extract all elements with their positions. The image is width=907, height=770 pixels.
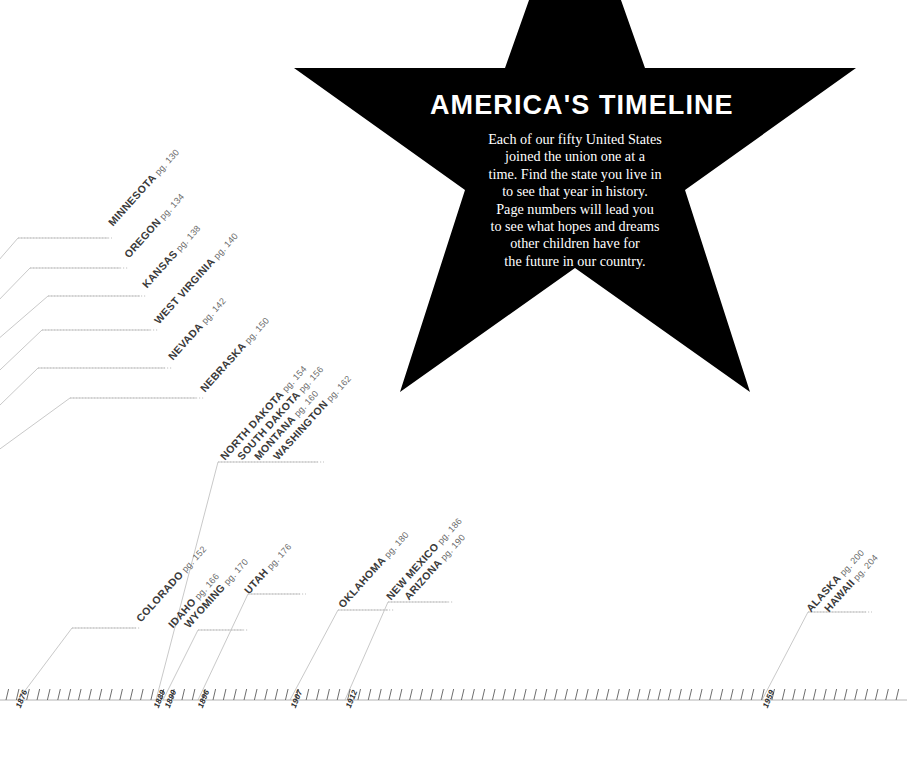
- intro-line: the future in our country.: [430, 253, 720, 270]
- axis-tick: [658, 689, 661, 700]
- axis-tick: [503, 689, 506, 700]
- axis-tick: [710, 689, 713, 700]
- axis-tick: [596, 689, 599, 700]
- intro-line: to see what hopes and dreams: [430, 218, 720, 235]
- axis-tick: [379, 689, 382, 700]
- axis-tick: [37, 689, 40, 700]
- axis-tick: [327, 689, 330, 700]
- axis-tick: [265, 689, 268, 700]
- axis-tick: [306, 689, 309, 700]
- axis-tick: [720, 689, 723, 700]
- axis-tick: [782, 689, 785, 700]
- axis-tick: [741, 689, 744, 700]
- intro-line: joined the union one at a: [430, 148, 720, 165]
- axis-tick: [6, 689, 9, 700]
- axis-tick: [617, 689, 620, 700]
- intro-line: to see that year in history.: [430, 183, 720, 200]
- axis-tick: [813, 689, 816, 700]
- axis-tick: [89, 689, 92, 700]
- axis-tick: [441, 689, 444, 700]
- intro-line: time. Find the state you live in: [430, 166, 720, 183]
- axis-tick: [844, 689, 847, 700]
- axis-tick: [461, 689, 464, 700]
- axis-tick: [699, 689, 702, 700]
- axis-tick: [430, 689, 433, 700]
- axis-tick: [865, 689, 868, 700]
- axis-tick: [389, 689, 392, 700]
- axis-tick: [99, 689, 102, 700]
- axis-tick: [689, 689, 692, 700]
- intro-line: other children have for: [430, 235, 720, 252]
- axis-tick: [141, 689, 144, 700]
- axis-tick: [78, 689, 81, 700]
- axis-tick: [368, 689, 371, 700]
- axis-tick: [110, 689, 113, 700]
- axis-tick: [420, 689, 423, 700]
- axis-tick: [534, 689, 537, 700]
- axis-tick: [130, 689, 133, 700]
- axis-tick: [492, 689, 495, 700]
- axis-tick: [565, 689, 568, 700]
- intro-line: Each of our fifty United States: [430, 131, 720, 148]
- axis-tick: [223, 689, 226, 700]
- axis-tick: [513, 689, 516, 700]
- axis-tick: [555, 689, 558, 700]
- axis-tick: [182, 689, 185, 700]
- axis-tick: [275, 689, 278, 700]
- axis-tick: [575, 689, 578, 700]
- axis-tick: [285, 689, 288, 700]
- axis-tick: [317, 689, 320, 700]
- intro-line: Page numbers will lead you: [430, 201, 720, 218]
- axis-tick: [472, 689, 475, 700]
- axis-tick: [192, 689, 195, 700]
- axis-tick: [58, 689, 61, 700]
- axis-tick: [151, 689, 154, 700]
- axis-tick: [68, 689, 71, 700]
- axis-tick: [254, 689, 257, 700]
- axis-tick: [244, 689, 247, 700]
- axis-tick: [648, 689, 651, 700]
- axis-tick: [679, 689, 682, 700]
- axis-tick: [47, 689, 50, 700]
- axis-tick: [120, 689, 123, 700]
- axis-tick: [896, 689, 899, 700]
- axis-tick: [793, 689, 796, 700]
- axis-tick: [637, 689, 640, 700]
- axis-tick: [751, 689, 754, 700]
- axis-tick: [875, 689, 878, 700]
- axis-tick: [524, 689, 527, 700]
- axis-tick: [544, 689, 547, 700]
- axis-tick: [337, 689, 340, 700]
- intro-paragraph: Each of our fifty United Statesjoined th…: [430, 131, 720, 270]
- axis-tick: [451, 689, 454, 700]
- axis-tick: [606, 689, 609, 700]
- axis-tick: [627, 689, 630, 700]
- star-text-block: AMERICA'S TIMELINE Each of our fifty Uni…: [430, 92, 720, 270]
- axis-tick: [834, 689, 837, 700]
- axis-tick: [824, 689, 827, 700]
- axis-tick: [886, 689, 889, 700]
- axis-tick: [586, 689, 589, 700]
- axis-tick: [855, 689, 858, 700]
- axis-tick: [213, 689, 216, 700]
- axis-tick: [399, 689, 402, 700]
- axis-tick: [410, 689, 413, 700]
- page-title: AMERICA'S TIMELINE: [430, 92, 720, 119]
- axis-tick: [482, 689, 485, 700]
- axis-tick: [731, 689, 734, 700]
- timeline-poster: AMERICA'S TIMELINE Each of our fifty Uni…: [0, 0, 907, 770]
- axis-tick: [234, 689, 237, 700]
- axis-tick: [668, 689, 671, 700]
- axis-tick: [803, 689, 806, 700]
